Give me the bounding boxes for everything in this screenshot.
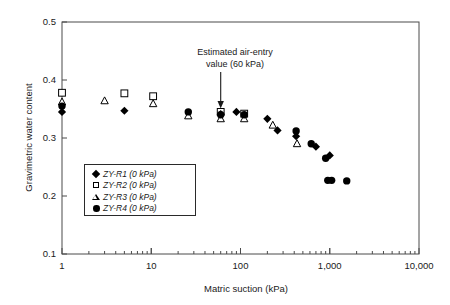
marker-open-triangle — [293, 140, 300, 147]
legend-item-zy-r1: ZY-R1 (0 kPa) — [90, 168, 195, 180]
open-square-icon — [90, 180, 103, 191]
marker-filled-diamond — [58, 108, 66, 116]
filled-circle-icon — [90, 203, 103, 214]
legend-item-zy-r2: ZY-R2 (0 kPa) — [90, 180, 195, 192]
legend-label-zy-r1: ZY-R1 (0 kPa) — [103, 169, 157, 179]
x-axis-title: Matric suction (kPa) — [181, 283, 311, 294]
marker-filled-diamond — [232, 108, 240, 116]
x-tick-label: 1,000 — [300, 260, 360, 271]
y-tick-label: 0.5 — [22, 16, 56, 27]
marker-filled-circle — [328, 177, 335, 184]
y-tick-label: 0.4 — [22, 74, 56, 85]
annotation-line-2: value (60 kPa) — [176, 59, 294, 71]
marker-open-square — [59, 89, 66, 96]
y-tick-label: 0.1 — [22, 248, 56, 259]
marker-open-triangle — [149, 100, 156, 107]
marker-open-triangle — [101, 97, 108, 104]
air-entry-annotation: Estimated air-entry value (60 kPa) — [176, 47, 294, 70]
x-tick-label: 100 — [211, 260, 271, 271]
legend-item-zy-r3: ZY-R3 (0 kPa) — [90, 191, 195, 203]
chart-figure: Gravimetric water content Matric suction… — [0, 0, 450, 305]
series-zy-r1 — [58, 107, 334, 160]
marker-filled-circle — [343, 177, 350, 184]
marker-open-square — [150, 93, 157, 100]
legend-label-zy-r3: ZY-R3 (0 kPa) — [103, 192, 157, 202]
marker-open-triangle — [269, 121, 276, 128]
x-tick-label: 10 — [121, 260, 181, 271]
annotation-arrow-head — [218, 101, 224, 109]
filled-diamond-icon — [90, 168, 103, 179]
marker-filled-diamond — [263, 115, 271, 123]
x-tick-label: 10,000 — [389, 260, 449, 271]
legend-item-zy-r4: ZY-R4 (0 kPa) — [90, 203, 195, 215]
series-zy-r3 — [58, 97, 300, 147]
x-tick-label: 1 — [32, 260, 92, 271]
legend-label-zy-r2: ZY-R2 (0 kPa) — [103, 180, 157, 190]
legend-label-zy-r4: ZY-R4 (0 kPa) — [103, 203, 157, 213]
marker-filled-diamond — [292, 132, 300, 140]
marker-filled-circle — [240, 111, 247, 118]
marker-filled-diamond — [120, 107, 128, 115]
legend: ZY-R1 (0 kPa) ZY-R2 (0 kPa) ZY-R3 (0 kPa… — [84, 164, 196, 216]
open-triangle-icon — [90, 191, 103, 202]
y-tick-label: 0.3 — [22, 132, 56, 143]
marker-open-square — [121, 90, 128, 97]
annotation-line-1: Estimated air-entry — [176, 47, 294, 59]
y-tick-label: 0.2 — [22, 190, 56, 201]
marker-filled-circle — [185, 108, 192, 115]
